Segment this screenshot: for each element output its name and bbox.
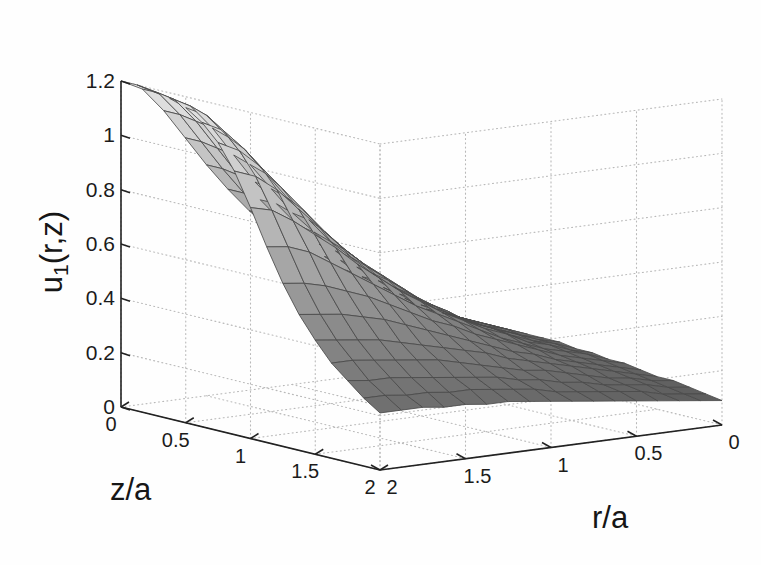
- x-axis-title: z/a: [110, 472, 151, 508]
- tick-label: 0.8: [86, 178, 115, 201]
- tick-label: 1: [103, 123, 115, 146]
- tick-label: 2: [364, 476, 375, 498]
- tick-label: 0.4: [86, 286, 116, 309]
- tick-label: 2: [386, 476, 397, 498]
- tick-label: 0: [105, 413, 116, 435]
- tick-label: 1.2: [86, 69, 115, 92]
- z-axis-title-main: u: [34, 276, 69, 293]
- tick-label: 0.5: [635, 442, 663, 464]
- tick-label: 1.5: [464, 465, 492, 487]
- tick-label: 0.5: [162, 429, 190, 451]
- tick-label: 1: [557, 454, 568, 476]
- surface-plot-figure: 00.20.40.60.811.200.511.5200.511.52 u1(r…: [0, 0, 761, 565]
- tick-label: 1.5: [291, 460, 319, 482]
- tick-label: 0.2: [86, 341, 115, 364]
- tick-label: 0: [728, 431, 739, 453]
- tick-label: 1: [235, 445, 246, 467]
- z-axis-title-tail: (r,z): [34, 211, 69, 264]
- z-axis-title: u1(r,z): [34, 152, 73, 352]
- y-axis-title: r/a: [592, 500, 628, 536]
- z-axis-title-subscript: 1: [49, 264, 72, 276]
- tick-label: 0.6: [86, 232, 115, 255]
